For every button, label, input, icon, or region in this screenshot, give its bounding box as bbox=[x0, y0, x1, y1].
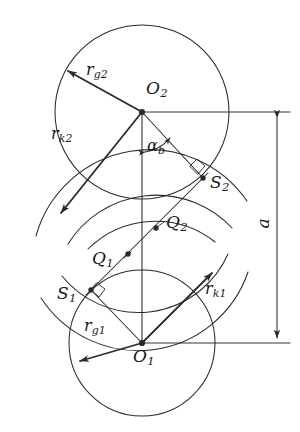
point-S2 bbox=[200, 175, 205, 180]
point-Q2 bbox=[153, 225, 158, 230]
label-tangent-point-1-base: S bbox=[57, 283, 69, 303]
label-contact-point-1: Q1 bbox=[92, 250, 113, 267]
label-radius-k1-sub: k1 bbox=[213, 287, 227, 300]
label-radius-k2: rk2 bbox=[51, 126, 72, 142]
label-center-upper-sub: 2 bbox=[160, 86, 167, 100]
label-radius-g1: rg1 bbox=[84, 318, 106, 334]
point-O2 bbox=[139, 109, 145, 115]
label-tangent-point-2: S2 bbox=[210, 174, 229, 191]
label-contact-point-2-base: Q bbox=[166, 212, 180, 232]
label-pressure-angle-sub: b bbox=[158, 144, 165, 157]
label-tangent-point-2-sub: 2 bbox=[222, 180, 229, 194]
label-radius-k2-base: r bbox=[51, 124, 59, 143]
label-radius-g1-base: r bbox=[84, 316, 92, 335]
label-radius-k2-sub: k2 bbox=[59, 132, 73, 145]
label-contact-point-2: Q2 bbox=[166, 214, 187, 231]
label-radius-g1-sub: g1 bbox=[92, 324, 106, 337]
label-center-distance-base: a bbox=[253, 218, 273, 228]
label-center-upper: O2 bbox=[146, 80, 167, 97]
point-Q1 bbox=[125, 251, 130, 256]
label-contact-point-1-base: Q bbox=[92, 248, 106, 268]
label-radius-k1: rk1 bbox=[205, 281, 226, 297]
label-radius-g2-base: r bbox=[86, 60, 94, 79]
label-contact-point-1-sub: 1 bbox=[106, 256, 113, 270]
label-pressure-angle-base: α bbox=[147, 136, 158, 155]
label-center-lower-base: O bbox=[133, 346, 147, 366]
upper-root-arc bbox=[88, 221, 215, 249]
label-tangent-point-1: S1 bbox=[57, 285, 76, 302]
label-radius-g2-sub: g2 bbox=[94, 68, 108, 81]
label-contact-point-2-sub: 2 bbox=[180, 220, 187, 234]
label-tangent-point-2-base: S bbox=[210, 172, 222, 192]
line-of-action bbox=[86, 173, 208, 295]
label-center-lower: O1 bbox=[133, 348, 154, 365]
label-center-distance: a bbox=[255, 218, 272, 228]
label-center-upper-base: O bbox=[146, 78, 160, 98]
point-S1 bbox=[88, 287, 93, 292]
label-pressure-angle: αb bbox=[147, 138, 165, 154]
gear-geometry-figure: O2 O1 rg2 rk2 rg1 rk1 S2 S1 Q2 Q1 αb a bbox=[0, 0, 300, 432]
label-center-lower-sub: 1 bbox=[147, 354, 154, 368]
label-radius-g2: rg2 bbox=[86, 62, 108, 78]
label-tangent-point-1-sub: 1 bbox=[69, 291, 76, 305]
label-radius-k1-base: r bbox=[205, 279, 213, 298]
